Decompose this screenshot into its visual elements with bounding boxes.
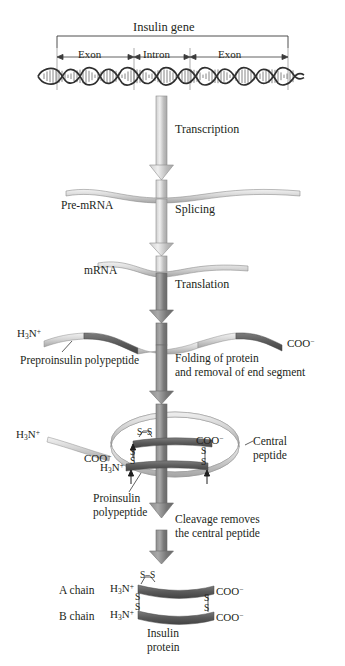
amino-terminus-text-5: H3N+	[110, 608, 134, 620]
translation-arrow	[150, 273, 174, 323]
preproinsulin-polypeptide	[44, 333, 282, 354]
carboxyl-terminus-a-chain: COO−	[216, 585, 243, 598]
amino-terminus-text-3: H3N+	[100, 461, 124, 473]
central-peptide-label-1: Central	[253, 435, 287, 448]
central-peptide-label-2: peptide	[253, 449, 287, 462]
arrow-stub-1	[156, 180, 167, 202]
gene-bracket	[57, 36, 288, 48]
carboxyl-terminus-text-4: COO−	[216, 585, 243, 597]
callout-leaders	[129, 441, 253, 492]
proinsulin-label-2: polypeptide	[93, 506, 147, 519]
amino-terminus-end-segment: H3N+	[16, 428, 40, 442]
transcription-arrow	[150, 96, 174, 180]
gene-label: Insulin gene	[133, 20, 194, 34]
step-label-transcription: Transcription	[175, 123, 239, 137]
step-label-cleavage-1: Cleavage removes	[175, 513, 260, 526]
figure-graphics	[0, 0, 345, 666]
carboxyl-terminus-text-3: COO−	[196, 434, 223, 446]
disulfide-label-proinsulin-top: S–S	[137, 427, 152, 438]
molecule-label-pre-mrna: Pre-mRNA	[61, 199, 113, 212]
carboxyl-terminus-proinsulin: COO−	[196, 434, 223, 447]
amino-terminus-text: H3N+	[17, 327, 41, 339]
segment-label-intron: Intron	[143, 48, 170, 61]
carboxyl-terminus-b-chain: COO−	[216, 611, 243, 624]
cleavage-site-markers	[128, 444, 209, 484]
folding-arrow	[150, 345, 174, 404]
cleavage-arrow-shaft	[156, 404, 167, 504]
segment-label-exon-1: Exon	[78, 48, 101, 61]
step-label-folding-2: and removal of end segment	[175, 366, 305, 379]
insulin-gene-expression-figure: Insulin gene Exon Intron Exon Transcript…	[0, 0, 345, 666]
carboxyl-terminus-preproinsulin: COO−	[287, 337, 314, 350]
step-label-folding-1: Folding of protein	[175, 352, 259, 365]
arrow-stub-3	[156, 323, 167, 345]
sulfur-label-p2: S	[130, 456, 135, 467]
amino-terminus-preproinsulin: H3N+	[17, 327, 41, 341]
amino-terminus-text-2: H3N+	[16, 428, 40, 440]
b-chain-label: B chain	[59, 610, 94, 623]
step-label-splicing: Splicing	[175, 203, 215, 217]
step-label-translation: Translation	[175, 278, 229, 292]
amino-terminus-proinsulin: H3N+	[100, 461, 124, 475]
final-arrow	[150, 530, 174, 564]
carboxyl-terminus-text-5: COO−	[216, 611, 243, 623]
step-label-cleavage-2: the central peptide	[175, 527, 260, 540]
disulfide-label-insulin-top: S–S	[140, 570, 155, 581]
dna-double-helix	[38, 68, 304, 85]
sulfur-label-i2: S	[135, 602, 140, 613]
sulfur-label-p3: S	[201, 446, 206, 457]
insulin-label-2: protein	[147, 641, 180, 654]
molecule-label-preproinsulin: Preproinsulin polypeptide	[20, 354, 139, 367]
amino-terminus-a-chain: H3N+	[110, 582, 134, 596]
arrow-stub-2	[156, 256, 167, 276]
segment-label-exon-2: Exon	[218, 48, 241, 61]
a-chain-label: A chain	[59, 584, 94, 597]
insulin-disulfide-bonds	[139, 577, 208, 612]
insulin-protein-chains	[138, 585, 214, 624]
carboxyl-terminus-text: COO−	[287, 337, 314, 349]
sulfur-label-p4: S	[201, 457, 206, 468]
mrna-ribbon	[98, 262, 248, 277]
splicing-arrow	[150, 199, 174, 256]
amino-terminus-text-4: H3N+	[110, 582, 134, 594]
sulfur-label-i4: S	[204, 603, 209, 614]
proinsulin-label-1: Proinsulin	[93, 492, 140, 505]
amino-terminus-b-chain: H3N+	[110, 608, 134, 622]
insulin-label-1: Insulin	[147, 627, 179, 640]
cleavage-arrowhead	[150, 503, 174, 518]
molecule-label-mrna: mRNA	[84, 264, 117, 277]
